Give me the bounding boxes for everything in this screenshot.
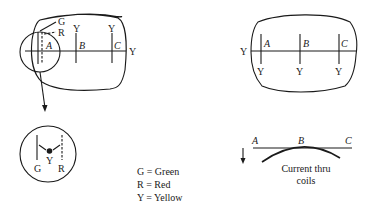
right-label-y-a: Y bbox=[257, 66, 264, 77]
green-pointer bbox=[40, 22, 56, 31]
convergence-diagram: G R Y Y Y A B C G Y R G = Green R = Red … bbox=[0, 0, 368, 213]
right-label-y-b: Y bbox=[296, 66, 303, 77]
inset-label-g: G bbox=[34, 163, 41, 174]
curve-caption-line2: coils bbox=[297, 175, 316, 186]
inset-label-r: R bbox=[58, 163, 65, 174]
inset-label-y: Y bbox=[46, 155, 53, 166]
curve-label-b: B bbox=[298, 135, 304, 146]
curve-label-c: C bbox=[345, 135, 352, 146]
right-label-c: C bbox=[341, 38, 348, 49]
current-curve-diagram: A B C Current thru coils bbox=[241, 135, 353, 186]
legend-item-yellow: Y = Yellow bbox=[137, 192, 183, 203]
inset-green-arrow bbox=[39, 145, 46, 150]
current-curve bbox=[262, 147, 340, 162]
label-y-right: Y bbox=[129, 46, 136, 57]
right-screen-outline bbox=[251, 15, 357, 92]
right-label-y-c: Y bbox=[335, 66, 342, 77]
curve-caption-line1: Current thru bbox=[281, 163, 330, 174]
inset-red-arrow bbox=[53, 145, 60, 150]
right-label-y-left: Y bbox=[240, 46, 247, 57]
legend: G = Green R = Red Y = Yellow bbox=[137, 166, 183, 203]
label-a: A bbox=[45, 40, 53, 51]
inset-detail: G Y R bbox=[20, 126, 76, 182]
inset-circle bbox=[20, 126, 76, 182]
label-c: C bbox=[114, 40, 121, 51]
right-crt-screen: Y A B C Y Y Y bbox=[240, 15, 357, 92]
down-arrow-icon bbox=[241, 158, 246, 164]
label-g: G bbox=[58, 16, 65, 27]
label-r: R bbox=[58, 27, 65, 38]
right-label-b: B bbox=[303, 38, 309, 49]
curve-label-a: A bbox=[251, 135, 259, 146]
label-y-b: Y bbox=[73, 23, 80, 34]
magnifier-arrow-line bbox=[40, 72, 45, 108]
label-y-c: Y bbox=[108, 23, 115, 34]
magnifier-circle bbox=[20, 32, 60, 72]
convergence-dot bbox=[47, 148, 53, 154]
legend-item-red: R = Red bbox=[137, 179, 170, 190]
right-label-a: A bbox=[263, 38, 271, 49]
label-b: B bbox=[79, 40, 85, 51]
legend-item-green: G = Green bbox=[137, 166, 179, 177]
arrow-down-icon bbox=[42, 105, 48, 112]
left-crt-screen: G R Y Y Y A B C bbox=[20, 14, 136, 112]
